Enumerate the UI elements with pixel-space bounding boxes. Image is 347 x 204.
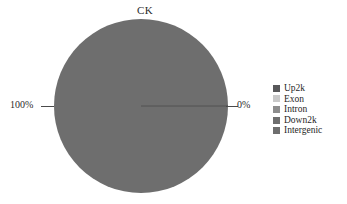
pie-chart-figure: CK 100% 0% Up2k Exon Intron Down2k Inter… — [0, 0, 347, 204]
legend-item-label: Intron — [284, 104, 307, 115]
legend: Up2k Exon Intron Down2k Intergenic — [273, 83, 322, 136]
legend-item-label: Up2k — [284, 83, 305, 94]
legend-item-up2k[interactable]: Up2k — [273, 83, 322, 94]
leader-line-left — [41, 106, 54, 107]
legend-item-label: Down2k — [284, 115, 317, 126]
pie-svg — [52, 19, 230, 195]
chart-title: CK — [0, 4, 290, 16]
legend-item-intergenic[interactable]: Intergenic — [273, 125, 322, 136]
axis-label-100-percent: 100% — [10, 99, 33, 110]
legend-swatch-icon — [273, 117, 280, 124]
legend-item-exon[interactable]: Exon — [273, 94, 322, 105]
legend-swatch-icon — [273, 106, 280, 113]
legend-item-intron[interactable]: Intron — [273, 104, 322, 115]
legend-swatch-icon — [273, 127, 280, 134]
pie-chart-plot-area — [52, 19, 230, 195]
legend-swatch-icon — [273, 85, 280, 92]
legend-item-label: Exon — [284, 94, 304, 105]
legend-item-down2k[interactable]: Down2k — [273, 115, 322, 126]
legend-swatch-icon — [273, 95, 280, 102]
axis-label-0-percent: 0% — [237, 99, 250, 110]
legend-item-label: Intergenic — [284, 125, 322, 136]
